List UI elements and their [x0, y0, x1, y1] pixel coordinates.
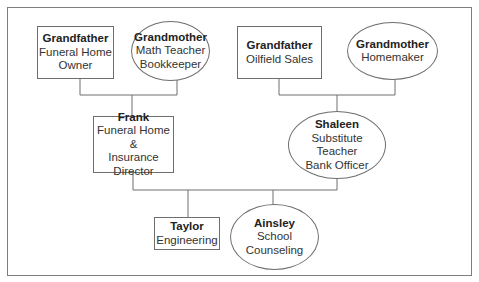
node-name: Grandmother: [134, 31, 207, 45]
node-role: Owner: [59, 59, 93, 73]
node-role: Funeral Home: [39, 46, 112, 60]
node-role: School: [257, 230, 292, 244]
node-role: Homemaker: [361, 51, 424, 65]
node-role: Math Teacher: [136, 44, 205, 58]
node-maternal-grandfather: Grandfather Oilfield Sales: [237, 26, 322, 79]
node-mother-shaleen: Shaleen Substitute Teacher Bank Officer: [288, 111, 386, 179]
connector-paternal-grandparents: [80, 78, 177, 95]
node-role: Oilfield Sales: [246, 53, 313, 67]
node-role: Engineering: [156, 234, 217, 248]
node-name: Grandfather: [43, 32, 109, 46]
node-maternal-grandmother: Grandmother Homemaker: [347, 22, 438, 80]
node-name: Shaleen: [315, 118, 359, 132]
node-name: Grandfather: [247, 39, 313, 53]
node-name: Grandmother: [356, 38, 429, 52]
node-name: Taylor: [170, 220, 204, 234]
node-son-taylor: Taylor Engineering: [154, 217, 220, 250]
connector-maternal-grandparents: [279, 78, 395, 95]
node-role: Substitute: [311, 132, 362, 146]
connector-parents: [133, 172, 337, 190]
node-daughter-ainsley: Ainsley School Counseling: [230, 204, 319, 270]
node-father-frank: Frank Funeral Home & Insurance Director: [93, 116, 174, 173]
node-name: Frank: [118, 111, 149, 125]
node-role: Insurance: [108, 151, 159, 165]
node-paternal-grandfather: Grandfather Funeral Home Owner: [37, 26, 114, 79]
node-role: Bank Officer: [305, 159, 368, 173]
node-name: Ainsley: [254, 217, 295, 231]
node-role: Counseling: [246, 244, 304, 258]
node-role: Bookkeeper: [140, 58, 201, 72]
node-role: Funeral Home &: [94, 124, 173, 151]
node-role: Teacher: [317, 145, 358, 159]
node-role: Director: [113, 165, 153, 179]
node-paternal-grandmother: Grandmother Math Teacher Bookkeeper: [131, 21, 210, 81]
